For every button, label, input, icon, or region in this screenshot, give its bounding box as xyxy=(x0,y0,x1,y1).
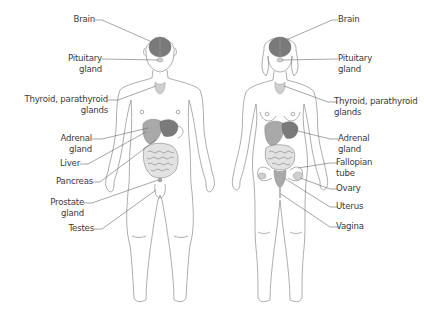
label-male-testes: Testes xyxy=(69,223,95,234)
label-text: Fallopian xyxy=(336,157,372,168)
label-female-ovary: Ovary xyxy=(336,183,361,194)
label-text: Prostate xyxy=(50,197,84,208)
label-text: Liver xyxy=(60,158,80,169)
label-male-adrenal: Adrenal gland xyxy=(60,133,92,155)
label-text: Adrenal xyxy=(338,133,370,144)
label-text: Pituitary xyxy=(338,53,372,64)
label-female-brain: Brain xyxy=(338,14,360,25)
label-text: Ovary xyxy=(336,183,361,194)
label-female-uterus: Uterus xyxy=(336,201,363,212)
label-male-pituitary: Pituitary gland xyxy=(68,53,102,75)
label-text: Uterus xyxy=(336,201,363,212)
label-text: Thyroid, parathyroid xyxy=(334,96,418,107)
label-text: Thyroid, parathyroid xyxy=(24,94,108,105)
label-text: Pancreas xyxy=(56,176,93,187)
label-text: gland xyxy=(60,144,92,155)
endocrine-diagram: Brain Pituitary gland Thyroid, parathyro… xyxy=(0,0,424,314)
label-text: gland xyxy=(338,144,370,155)
label-text: Brain xyxy=(73,14,95,25)
label-text: gland xyxy=(68,64,102,75)
label-male-pancreas: Pancreas xyxy=(56,176,93,187)
label-text: glands xyxy=(24,105,108,116)
label-text: glands xyxy=(334,107,418,118)
female-figure xyxy=(232,20,338,302)
label-text: Vagina xyxy=(336,221,364,232)
label-female-thyroid: Thyroid, parathyroid glands xyxy=(334,96,418,118)
label-text: gland xyxy=(338,64,372,75)
label-male-liver: Liver xyxy=(60,158,80,169)
label-female-pituitary: Pituitary gland xyxy=(338,53,372,75)
label-male-prostate: Prostate gland xyxy=(50,197,84,219)
label-female-vagina: Vagina xyxy=(336,221,364,232)
label-male-brain: Brain xyxy=(73,14,95,25)
label-text: gland xyxy=(50,208,84,219)
label-text: Brain xyxy=(338,14,360,25)
label-text: Pituitary xyxy=(68,53,102,64)
label-female-adrenal: Adrenal gland xyxy=(338,133,370,155)
label-male-thyroid: Thyroid, parathyroid glands xyxy=(24,94,108,116)
label-female-fallopian: Fallopian tube xyxy=(336,157,372,179)
label-text: tube xyxy=(336,168,372,179)
label-text: Testes xyxy=(69,223,95,234)
label-text: Adrenal xyxy=(60,133,92,144)
